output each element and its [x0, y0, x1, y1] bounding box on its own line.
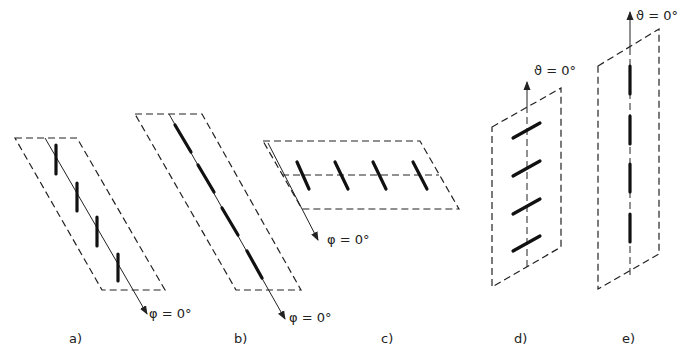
angle-label: ϑ = 0°: [636, 8, 678, 23]
angle-label: φ = 0°: [149, 306, 192, 321]
figure-caption: a): [69, 331, 82, 346]
figure-caption: b): [234, 331, 247, 346]
dipole-element: [335, 162, 348, 189]
figure-e: ϑ = 0° e): [598, 8, 678, 346]
angle-label: φ = 0°: [327, 232, 370, 247]
dipole-element: [222, 208, 238, 235]
angle-label: φ = 0°: [289, 310, 332, 325]
dipole-element: [247, 251, 262, 278]
dipole-element: [198, 165, 214, 192]
axis-arrow: [268, 143, 318, 240]
figure-d: ϑ = 0° d): [492, 63, 576, 346]
figure-caption: d): [514, 331, 527, 346]
antenna-element-diagram: φ = 0° a) φ = 0° b) φ = 0° c) ϑ = 0° d): [0, 0, 683, 356]
dipole-element: [175, 125, 191, 152]
plane-outline: [15, 138, 165, 290]
dipole-element: [513, 123, 540, 138]
figure-caption: e): [622, 331, 635, 346]
angle-label: ϑ = 0°: [534, 63, 576, 78]
figure-a: φ = 0° a): [15, 138, 192, 346]
figure-caption: c): [381, 331, 393, 346]
